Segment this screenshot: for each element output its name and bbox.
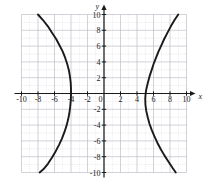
y-tick-8: 8 [97, 26, 101, 35]
y-tick--2: -2 [94, 105, 101, 114]
x-tick-6: 6 [152, 95, 156, 104]
x-tick--8: -8 [35, 95, 42, 104]
x-tick-0: 0 [99, 95, 103, 104]
y-tick--10: -10 [90, 169, 101, 178]
x-tick--6: -6 [51, 95, 58, 104]
y-tick--4: -4 [94, 121, 101, 130]
graph-figure: -10-8-6-4-20246810-10-8-6-4-2246810 x y [0, 0, 207, 188]
x-axis-label: x [198, 92, 203, 101]
y-tick-6: 6 [97, 42, 101, 51]
x-tick-4: 4 [135, 95, 139, 104]
x-tick-8: 8 [168, 95, 172, 104]
x-tick-10: 10 [183, 95, 191, 104]
y-tick-2: 2 [97, 74, 101, 83]
coordinate-plane: -10-8-6-4-20246810-10-8-6-4-2246810 x y [0, 0, 207, 188]
y-tick--6: -6 [94, 137, 101, 146]
y-tick-10: 10 [93, 11, 101, 20]
x-tick-2: 2 [119, 95, 123, 104]
y-axis-label: y [95, 2, 100, 11]
y-tick-4: 4 [97, 58, 101, 67]
x-tick--2: -2 [84, 95, 91, 104]
y-tick--8: -8 [94, 153, 101, 162]
x-tick--10: -10 [16, 95, 27, 104]
